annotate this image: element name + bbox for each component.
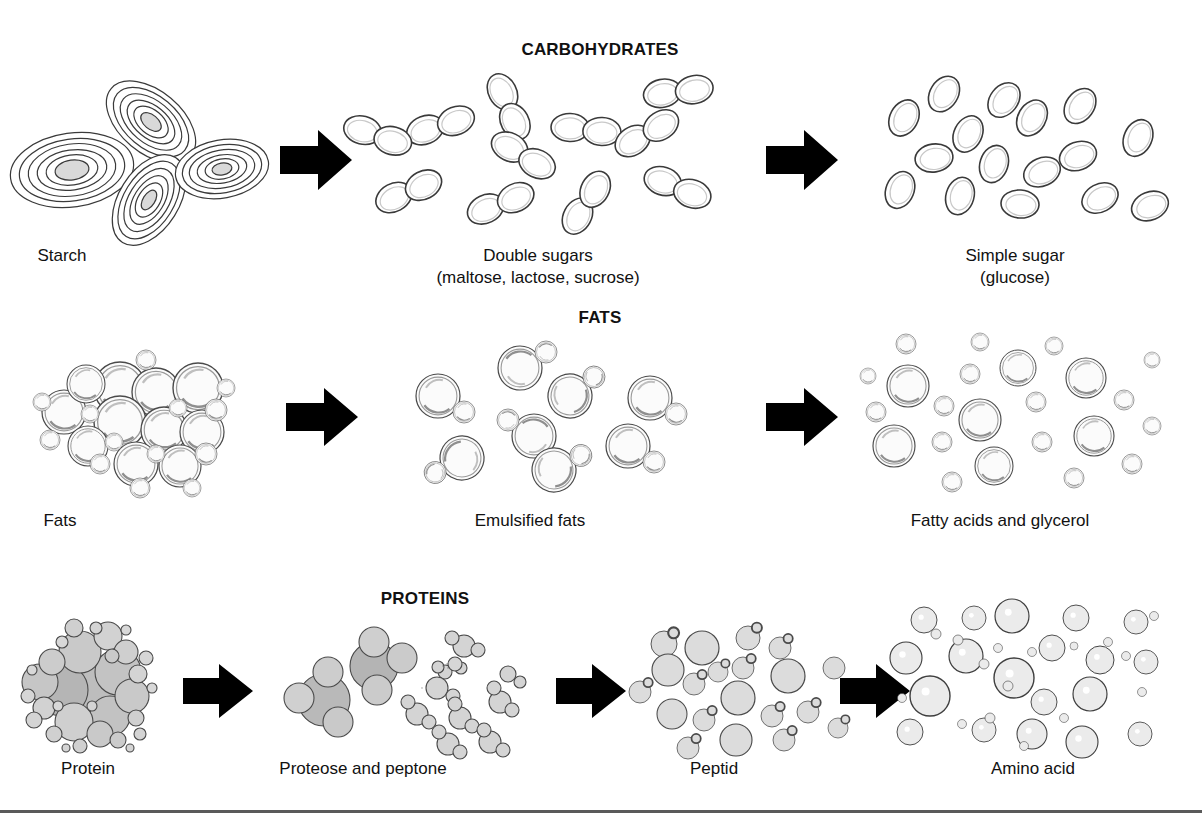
- caption-emulsified-fats-label: Emulsified fats: [475, 510, 586, 532]
- caption-proteose-peptone: Proteose and peptone: [279, 758, 446, 780]
- arrow-emulsified-to-fatty-acids: [766, 386, 838, 452]
- separate-fat-droplet-svg: [852, 330, 1172, 502]
- caption-simple-sugar: Simple sugar (glucose): [965, 245, 1064, 289]
- digestion-diagram: CARBOHYDRATES FATS PROTEINS: [0, 0, 1202, 822]
- stage-protein: [14, 612, 184, 752]
- right-arrow-icon: [766, 128, 838, 192]
- single-oval-sugar-svg: [862, 76, 1162, 226]
- arrow-double-sugars-to-simple-sugar: [766, 128, 838, 196]
- caption-starch: Starch: [37, 245, 86, 267]
- stage-starch: [10, 72, 260, 222]
- section-title-proteins: PROTEINS: [381, 589, 470, 609]
- right-arrow-icon: [766, 386, 838, 448]
- caption-double-sugars-sublabel: (maltose, lactose, sucrose): [436, 267, 639, 289]
- stage-simple-sugar: [862, 76, 1162, 226]
- section-title-fats: FATS: [579, 308, 622, 328]
- caption-fats: Fats: [43, 510, 76, 532]
- caption-double-sugars: Double sugars (maltose, lactose, sucrose…: [436, 245, 639, 289]
- caption-starch-label: Starch: [37, 245, 86, 267]
- caption-simple-sugar-label: Simple sugar: [965, 245, 1064, 267]
- caption-proteose-peptone-label: Proteose and peptone: [279, 758, 446, 780]
- clustered-fat-globule-svg: [20, 340, 260, 500]
- starch-granule-contours-svg: [10, 72, 260, 222]
- caption-fatty-acids-glycerol: Fatty acids and glycerol: [911, 510, 1090, 532]
- stage-fatty-acids-glycerol: [852, 330, 1172, 502]
- stage-double-sugars: [382, 74, 682, 226]
- arrow-protein-to-proteose: [183, 662, 253, 724]
- emulsified-globule-pair-svg: [400, 348, 690, 498]
- caption-protein-label: Protein: [61, 758, 115, 780]
- paired-oval-sugar-svg: [382, 74, 682, 226]
- caption-emulsified-fats: Emulsified fats: [475, 510, 586, 532]
- single-amino-acid-circle-svg: [888, 598, 1188, 754]
- right-arrow-icon: [280, 128, 352, 192]
- stage-peptid: [612, 608, 862, 752]
- protein-fragment-cluster-svg: [262, 626, 542, 758]
- stage-amino-acid: [888, 598, 1188, 754]
- stage-emulsified-fats: [400, 348, 690, 498]
- dense-gray-protein-cluster-svg: [14, 612, 184, 752]
- caption-double-sugars-label: Double sugars: [436, 245, 639, 267]
- arrow-fats-to-emulsified: [286, 386, 358, 452]
- caption-peptid: Peptid: [690, 758, 738, 780]
- bottom-divider: [0, 810, 1202, 813]
- section-title-carbohydrates: CARBOHYDRATES: [521, 40, 678, 60]
- caption-fatty-acids-glycerol-label: Fatty acids and glycerol: [911, 510, 1090, 532]
- caption-fats-label: Fats: [43, 510, 76, 532]
- arrow-starch-to-double-sugars: [280, 128, 352, 196]
- caption-peptid-label: Peptid: [690, 758, 738, 780]
- stage-fats: [20, 340, 260, 500]
- caption-simple-sugar-sublabel: (glucose): [965, 267, 1064, 289]
- caption-amino-acid-label: Amino acid: [991, 758, 1075, 780]
- right-arrow-icon: [183, 662, 253, 720]
- stage-proteose-peptone: [262, 626, 542, 758]
- caption-protein: Protein: [61, 758, 115, 780]
- right-arrow-icon: [286, 386, 358, 448]
- caption-amino-acid: Amino acid: [991, 758, 1075, 780]
- peptide-circle-with-bud-svg: [612, 608, 862, 752]
